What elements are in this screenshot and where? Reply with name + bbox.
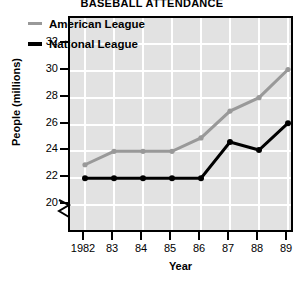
y-axis-title: People (millions)	[10, 42, 22, 162]
x-tick-mark	[169, 232, 171, 240]
legend-label: National League	[49, 38, 138, 50]
x-tick-mark	[140, 232, 142, 240]
data-point	[227, 139, 233, 145]
data-point	[169, 149, 174, 154]
x-tick-label: 85	[164, 243, 176, 254]
data-point	[256, 147, 262, 153]
x-tick-label: 89	[280, 243, 292, 254]
x-tick-label: 1982	[71, 243, 95, 254]
y-tick-mark	[60, 95, 68, 97]
chart-title: BASEBALL ATTENDANCE	[0, 0, 304, 8]
y-tick-label: 30	[34, 63, 58, 74]
data-point	[140, 175, 146, 181]
data-point	[140, 149, 145, 154]
y-tick-mark	[60, 122, 68, 124]
y-tick-label: 26	[34, 117, 58, 128]
y-tick-mark	[60, 148, 68, 150]
y-tick-mark	[60, 175, 68, 177]
data-point	[198, 175, 204, 181]
data-point	[256, 95, 261, 100]
data-point	[198, 135, 203, 140]
legend-swatch-icon	[28, 22, 42, 25]
x-tick-mark	[111, 232, 113, 240]
y-tick-label: 20	[34, 197, 58, 208]
data-point	[285, 120, 291, 126]
y-tick-label: 22	[34, 170, 58, 181]
legend-label: American League	[49, 18, 145, 30]
data-point	[82, 175, 88, 181]
y-tick-label: 24	[34, 143, 58, 154]
y-tick-label: 28	[34, 90, 58, 101]
axis-break-icon	[56, 198, 78, 220]
data-point	[111, 149, 116, 154]
data-point	[227, 108, 232, 113]
legend: American League National League	[28, 14, 145, 54]
x-axis-title: Year	[68, 260, 293, 272]
data-point	[285, 67, 290, 72]
x-tick-label: 87	[222, 243, 234, 254]
x-tick-mark	[256, 232, 258, 240]
x-tick-label: 86	[193, 243, 205, 254]
data-point	[169, 175, 175, 181]
y-tick-mark	[60, 68, 68, 70]
data-point	[111, 175, 117, 181]
legend-swatch-icon	[28, 42, 42, 46]
x-tick-label: 88	[251, 243, 263, 254]
x-tick-mark	[198, 232, 200, 240]
x-tick-mark	[227, 232, 229, 240]
x-tick-label: 84	[135, 243, 147, 254]
x-tick-label: 83	[106, 243, 118, 254]
x-tick-mark	[82, 232, 84, 240]
legend-item-national-league: National League	[28, 34, 145, 54]
legend-item-american-league: American League	[28, 14, 145, 34]
data-point	[82, 162, 87, 167]
x-tick-mark	[285, 232, 287, 240]
baseball-attendance-chart: BASEBALL ATTENDANCE 20222426283032 19828…	[0, 0, 304, 284]
